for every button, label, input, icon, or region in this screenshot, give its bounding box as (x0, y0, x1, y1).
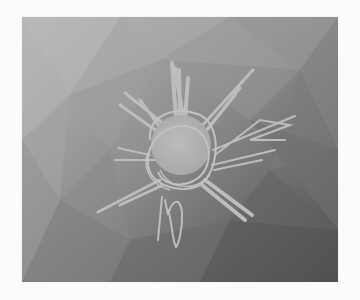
artwork-frame (22, 17, 338, 282)
sketch-artwork (22, 17, 338, 282)
